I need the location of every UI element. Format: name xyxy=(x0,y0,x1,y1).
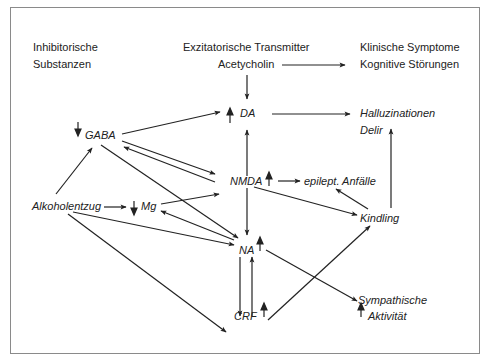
header-excitatory: Exzitatorische Transmitter xyxy=(183,41,310,54)
header-clinical: Klinische Symptome xyxy=(360,41,460,54)
node-crf: CRF xyxy=(234,310,257,323)
node-alkoholentzug: Alkoholentzug xyxy=(32,200,101,213)
node-mg: Mg xyxy=(141,200,156,213)
node-epilept-anfaelle: epilept. Anfälle xyxy=(304,175,376,188)
node-kindling: Kindling xyxy=(360,212,399,225)
node-acetylcholin: Acetycholin xyxy=(218,58,274,71)
node-da: DA xyxy=(240,107,255,120)
node-aktivitaet: Aktivität xyxy=(368,310,407,323)
node-gaba: GABA xyxy=(85,129,116,142)
node-halluzinationen: Halluzinationen xyxy=(360,107,435,120)
node-sympathische: Sympathische xyxy=(358,294,427,307)
node-kognitive-stoerungen: Kognitive Störungen xyxy=(360,58,459,71)
node-delir: Delir xyxy=(360,124,383,137)
header-inhibitory-line1: Inhibitorische xyxy=(33,41,98,54)
node-na: NA xyxy=(239,244,254,257)
node-nmda: NMDA xyxy=(230,175,262,188)
header-inhibitory-line2: Substanzen xyxy=(33,58,91,71)
